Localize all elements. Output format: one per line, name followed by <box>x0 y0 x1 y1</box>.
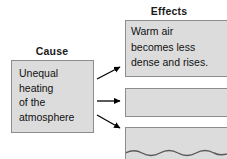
effect-box-1-text: Warm air becomes less dense and rises. <box>131 24 227 71</box>
effect-text-line: dense and rises. <box>131 55 227 71</box>
cause-heading: Cause <box>0 45 104 57</box>
cause-text-line: Unequal <box>19 66 90 81</box>
arrow-to-effect-3 <box>97 115 120 128</box>
cause-box: Unequal heating of the atmosphere <box>11 60 94 133</box>
effect-text-line: becomes less <box>131 40 227 56</box>
cause-text-line: of the <box>19 95 90 110</box>
effect-text-line: Warm air <box>131 24 227 40</box>
effect-box-2 <box>125 88 227 117</box>
cause-effect-diagram: Cause Unequal heating of the atmosphere … <box>0 0 227 159</box>
effect-box-1: Warm air becomes less dense and rises. <box>125 20 227 77</box>
cause-text-line: atmosphere <box>19 110 90 125</box>
cause-text-line: heating <box>19 81 90 96</box>
cause-box-text: Unequal heating of the atmosphere <box>19 66 90 124</box>
arrow-to-effect-1 <box>97 67 120 79</box>
effects-heading: Effects <box>125 5 213 17</box>
effect-box-3 <box>125 127 227 159</box>
wavy-line-icon <box>126 144 227 159</box>
